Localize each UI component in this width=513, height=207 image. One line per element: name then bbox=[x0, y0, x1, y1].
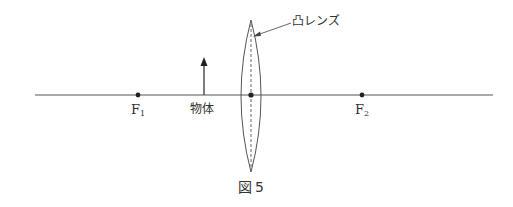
lens-label-pointer bbox=[257, 23, 291, 35]
object-arrow-head-icon bbox=[201, 57, 208, 66]
lens-label: 凸レンズ bbox=[292, 15, 340, 27]
focus-point-f1 bbox=[136, 93, 141, 98]
lens-center-dot bbox=[248, 92, 253, 97]
focus-label-f2-letter: F bbox=[355, 102, 364, 117]
figure-caption-prefix: 図 bbox=[238, 179, 252, 195]
object-label: 物体 bbox=[190, 103, 214, 115]
focus-point-f2 bbox=[360, 93, 365, 98]
focus-label-f2: F2 bbox=[355, 103, 369, 118]
focus-label-f1-sub: 1 bbox=[140, 109, 145, 118]
diagram-canvas bbox=[0, 0, 513, 207]
figure-caption-number: 5 bbox=[255, 179, 264, 195]
focus-label-f2-sub: 2 bbox=[364, 109, 369, 118]
figure-caption: 図5 bbox=[238, 180, 264, 194]
focus-label-f1-letter: F bbox=[131, 102, 140, 117]
focus-label-f1: F1 bbox=[131, 103, 145, 118]
